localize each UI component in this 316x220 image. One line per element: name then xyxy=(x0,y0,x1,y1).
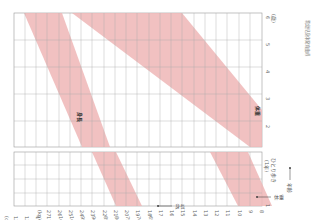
svg-text:5: 5 xyxy=(265,43,271,46)
svg-text:65: 65 xyxy=(148,216,154,220)
walk-note: ひとり歩き xyxy=(270,158,277,183)
walk-year: (1年) xyxy=(263,160,270,172)
svg-text:15: 15 xyxy=(180,210,186,216)
age-unit: (歳) xyxy=(271,14,277,23)
svg-text:16: 16 xyxy=(169,210,175,216)
svg-text:70: 70 xyxy=(136,216,142,220)
svg-text:1: 1 xyxy=(265,204,271,207)
svg-text:115: 115 xyxy=(35,216,41,220)
growth-chart: 身長 体重 ひとり歩き (1年) 6 5 4 3 2 1 (歳) (kg) 27… xyxy=(0,0,316,220)
svg-text:85: 85 xyxy=(103,216,109,220)
svg-text:3: 3 xyxy=(265,97,271,100)
svg-text:120: 120 xyxy=(24,216,30,220)
svg-text:90: 90 xyxy=(91,216,97,220)
svg-text:12: 12 xyxy=(214,210,220,216)
svg-text:年齢: 年齢 xyxy=(286,183,293,193)
svg-text:14: 14 xyxy=(192,210,198,216)
svg-text:105: 105 xyxy=(58,216,64,220)
height-axis: (cm) 125 120 115 110 105 100 95 90 85 80… xyxy=(4,216,154,220)
svg-text:10: 10 xyxy=(237,210,243,216)
svg-text:125: 125 xyxy=(13,216,19,220)
svg-text:(cm): (cm) xyxy=(4,216,10,220)
legend-arrow-age: 年齢 xyxy=(286,167,293,193)
svg-text:身長: 身長 xyxy=(175,203,185,210)
svg-text:4: 4 xyxy=(265,70,271,73)
svg-text:80: 80 xyxy=(114,216,120,220)
side-caption: 乳幼児身体発育曲線 xyxy=(304,20,311,57)
svg-text:75: 75 xyxy=(125,216,131,220)
svg-text:95: 95 xyxy=(80,216,86,220)
svg-text:110: 110 xyxy=(46,216,52,220)
svg-text:体重: 体重 xyxy=(274,194,284,201)
svg-text:11: 11 xyxy=(225,210,231,216)
height-band-label: 身長 xyxy=(76,112,83,123)
weight-band-label: 体重 xyxy=(254,106,261,116)
svg-text:100: 100 xyxy=(69,216,75,220)
svg-text:9: 9 xyxy=(248,210,254,213)
svg-text:8: 8 xyxy=(259,210,265,213)
svg-text:17: 17 xyxy=(158,210,164,216)
svg-text:2: 2 xyxy=(265,125,271,128)
svg-text:6: 6 xyxy=(265,16,271,19)
svg-text:13: 13 xyxy=(203,210,209,216)
